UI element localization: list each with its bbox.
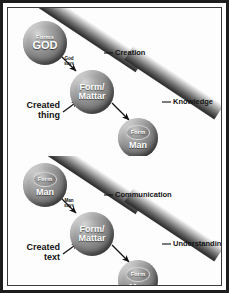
sphere-man-receiver-label: Man (129, 283, 147, 286)
label-created-text-line1: Created (10, 242, 60, 252)
inner-oval-form-label-receiver: Form (131, 272, 146, 278)
sphere-form-matter-top: Form/ Mattar (70, 70, 114, 114)
label-created-text: Created text (10, 242, 60, 262)
label-god-says-line2: says (58, 62, 80, 67)
sphere-man-label-top: Man (129, 141, 147, 150)
label-knowledge: Knowledge (173, 98, 213, 106)
arrow-matter-to-man (112, 103, 129, 120)
inner-oval-form-source: Form (33, 172, 57, 187)
label-created-thing-line1: Created (10, 100, 60, 110)
label-creation: Creation (115, 49, 145, 57)
sphere-man-source-label: Man (36, 188, 54, 197)
label-understanding: Understanding (173, 240, 221, 248)
label-man-says-line2: says (58, 204, 80, 209)
figure-inner-frame: Forms GOD Form/ Mattar Form Man God says… (7, 7, 222, 286)
inner-oval-form-label-source: Form (38, 177, 53, 183)
inner-oval-form-top: Form (126, 125, 150, 140)
label-man-says: Man says (58, 199, 80, 209)
label-created-thing-line2: thing (10, 110, 60, 120)
panel-communication: Form Man Form/ Mattar Form Man Man says … (8, 156, 221, 286)
panel-creation: Forms GOD Form/ Mattar Form Man God says… (8, 8, 221, 156)
label-communication: Communication (115, 191, 172, 199)
sphere-form-matter-bottom: Form/ Mattar (70, 212, 114, 256)
figure-container: Forms GOD Form/ Mattar Form Man God says… (0, 0, 229, 293)
inner-oval-form-label-top: Form (131, 130, 146, 136)
arrow-matter-to-man-bottom (112, 245, 129, 262)
sphere-god-label: GOD (32, 40, 57, 51)
inner-oval-form-receiver: Form (126, 267, 150, 282)
label-god-says: God says (58, 57, 80, 67)
label-created-thing: Created thing (10, 100, 60, 120)
sphere-matter-label-bottom: Mattar (78, 234, 105, 243)
label-created-text-line2: text (10, 252, 60, 262)
sphere-man-top: Form Man (118, 118, 158, 156)
sphere-matter-label-top: Mattar (78, 92, 105, 101)
